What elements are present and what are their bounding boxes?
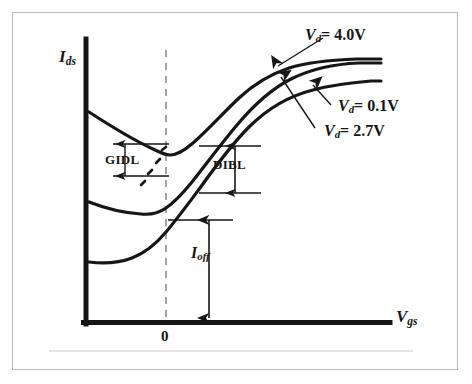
gidl-label: GIDL — [105, 153, 139, 166]
curve-label-vd-0p1v: Vd= 0.1V — [338, 98, 399, 115]
curve-value-vd-2p7v: = 2.7V — [340, 122, 385, 139]
y-axis-label: Ids — [59, 48, 76, 67]
transfer-characteristic-plot — [13, 13, 459, 371]
ioff-annotation-group — [168, 220, 233, 318]
callout-line-vd-2p7v — [281, 77, 315, 128]
axis-lines — [84, 39, 391, 324]
x-axis-origin-label: 0 — [161, 329, 169, 344]
dibl-label: DIBL — [213, 158, 246, 171]
curve-label-vd-4v: Vd= 4.0V — [305, 27, 366, 44]
x-axis-label: Vgs — [396, 308, 418, 327]
curve-value-vd-4v: = 4.0V — [321, 26, 366, 43]
figure-page: Ids Vgs 0 Vd= 4.0V Vd= 0.1V Vd= 2.7V GID… — [0, 0, 472, 384]
curve-label-vd-2p7v: Vd= 2.7V — [324, 123, 385, 140]
curve-value-vd-0p1v: = 0.1V — [354, 97, 399, 114]
figure-frame: Ids Vgs 0 Vd= 4.0V Vd= 0.1V Vd= 2.7V GID… — [12, 12, 458, 370]
ioff-label: Ioff — [191, 245, 210, 262]
